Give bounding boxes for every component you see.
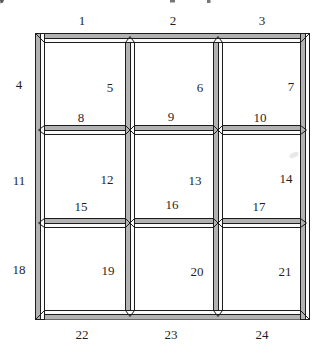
edge-label-6: 6 bbox=[197, 81, 204, 94]
edge-label-5: 5 bbox=[107, 81, 114, 94]
inner-vertical-bars bbox=[126, 43, 223, 311]
edge-label-3: 3 bbox=[259, 14, 266, 27]
edge-label-13: 13 bbox=[189, 174, 202, 187]
edge-label-2: 2 bbox=[170, 14, 177, 27]
edge-label-22: 22 bbox=[76, 328, 89, 341]
edge-label-23: 23 bbox=[165, 328, 178, 341]
edge-label-4: 4 bbox=[16, 78, 23, 91]
edge-label-14: 14 bbox=[280, 172, 293, 185]
edge-label-17: 17 bbox=[253, 200, 266, 213]
window-grid-diagram: 1 2 3 4 5 6 7 8 9 10 11 12 13 14 15 16 1… bbox=[0, 0, 324, 354]
edge-label-1: 1 bbox=[79, 14, 86, 27]
edge-label-15: 15 bbox=[75, 200, 88, 213]
edge-label-10: 10 bbox=[254, 111, 267, 124]
edge-label-12: 12 bbox=[101, 173, 114, 186]
edge-label-9: 9 bbox=[168, 110, 175, 123]
outer-frame bbox=[36, 34, 310, 320]
edge-label-7: 7 bbox=[288, 80, 295, 93]
edge-label-18: 18 bbox=[13, 263, 26, 276]
edge-label-8: 8 bbox=[78, 111, 85, 124]
edge-label-19: 19 bbox=[102, 264, 115, 277]
edge-label-20: 20 bbox=[191, 265, 204, 278]
edge-label-21: 21 bbox=[279, 265, 292, 278]
edge-label-11: 11 bbox=[13, 174, 26, 187]
miter-joints bbox=[36, 34, 310, 320]
window-frame-svg bbox=[0, 0, 324, 354]
edge-label-24: 24 bbox=[256, 328, 269, 341]
edge-label-16: 16 bbox=[166, 198, 179, 211]
